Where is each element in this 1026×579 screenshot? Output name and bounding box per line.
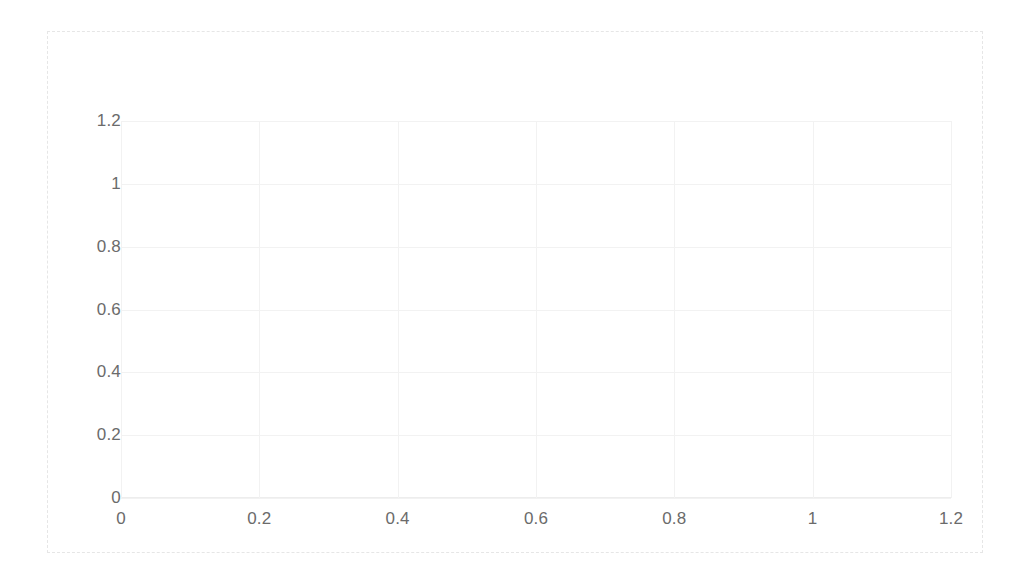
y-axis-tick-label: 0.8 <box>97 237 121 257</box>
y-axis-tick-label: 0.4 <box>97 362 121 382</box>
y-axis-tick-label: 0.6 <box>97 300 121 320</box>
gridline-vertical <box>259 121 260 498</box>
x-axis-tick-label: 0 <box>116 509 126 529</box>
x-axis-tick-label: 0.2 <box>247 509 271 529</box>
y-axis-tick-label: 1.2 <box>97 111 121 131</box>
gridline-vertical <box>121 121 122 498</box>
plot-area <box>121 121 951 498</box>
y-axis-tick-label: 1 <box>111 174 121 194</box>
x-axis-tick-label: 0.4 <box>386 509 410 529</box>
x-axis-tick-label: 0.8 <box>662 509 686 529</box>
x-axis-tick-label: 1 <box>808 509 818 529</box>
gridline-vertical <box>813 121 814 498</box>
gridline-vertical <box>536 121 537 498</box>
x-axis-tick-label: 1.2 <box>939 509 963 529</box>
y-axis-tick-label: 0.2 <box>97 425 121 445</box>
chart-frame: 00.20.40.60.811.2 00.20.40.60.811.2 <box>47 31 983 553</box>
y-axis-tick-labels: 00.20.40.60.811.2 <box>61 121 121 498</box>
x-axis-tick-labels: 00.20.40.60.811.2 <box>121 509 951 535</box>
y-axis-tick-label: 0 <box>111 488 121 508</box>
gridline-vertical <box>674 121 675 498</box>
x-axis-tick-label: 0.6 <box>524 509 548 529</box>
gridline-vertical <box>398 121 399 498</box>
gridline-vertical <box>951 121 952 498</box>
gridline-horizontal <box>121 498 951 499</box>
